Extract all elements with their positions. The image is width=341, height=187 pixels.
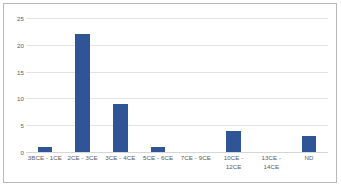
y-axis: 0510152025 — [4, 4, 26, 182]
x-tick-label: 10CE - 12CE — [215, 154, 253, 182]
chart-frame: 0510152025 3BCE - 1CE2CE - 3CE3CE - 4CE5… — [3, 3, 337, 183]
bar[interactable] — [38, 147, 52, 152]
bar[interactable] — [302, 136, 316, 152]
x-tick-label: ND — [290, 154, 328, 182]
bar-slot — [102, 18, 140, 152]
x-tick-label: 3BCE - 1CE — [26, 154, 64, 182]
y-tick-label: 20 — [17, 41, 24, 48]
x-tick-label: 5CE - 6CE — [139, 154, 177, 182]
bar[interactable] — [113, 104, 127, 152]
y-tick-label: 5 — [20, 122, 24, 129]
bar-slot — [215, 18, 253, 152]
chart-plot-wrapper: 0510152025 3BCE - 1CE2CE - 3CE3CE - 4CE5… — [4, 4, 336, 182]
y-tick-label: 10 — [17, 95, 24, 102]
bar-slot — [253, 18, 291, 152]
x-tick-label: 13CE - 14CE — [253, 154, 291, 182]
plot-area — [26, 18, 328, 152]
x-tick-label: 7CE - 9CE — [177, 154, 215, 182]
bar[interactable] — [151, 147, 165, 152]
bar-slot — [26, 18, 64, 152]
x-tick-label: 2CE - 3CE — [64, 154, 102, 182]
y-tick-label: 25 — [17, 15, 24, 22]
bar[interactable] — [226, 131, 240, 152]
x-tick-label: 3CE - 4CE — [102, 154, 140, 182]
bar[interactable] — [75, 34, 89, 152]
bar-series — [26, 18, 328, 152]
gridline — [26, 152, 328, 153]
y-tick-label: 0 — [20, 149, 24, 156]
bar-slot — [64, 18, 102, 152]
bar-slot — [139, 18, 177, 152]
bar-slot — [177, 18, 215, 152]
y-tick-label: 15 — [17, 68, 24, 75]
x-axis: 3BCE - 1CE2CE - 3CE3CE - 4CE5CE - 6CE7CE… — [26, 154, 328, 182]
bar-slot — [290, 18, 328, 152]
